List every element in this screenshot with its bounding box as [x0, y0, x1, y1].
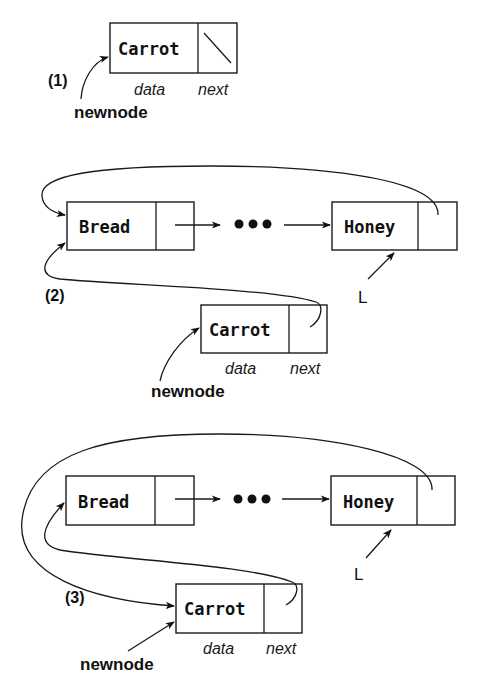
- newnode-pointer-label: newnode: [151, 382, 225, 401]
- newnode-arrow-icon: [128, 622, 174, 651]
- node-data-text: Carrot: [118, 39, 179, 59]
- node-bread: Bread: [66, 476, 194, 525]
- data-field-label: data: [134, 81, 165, 98]
- node-data-text: Carrot: [209, 320, 270, 340]
- node-honey: Honey: [331, 476, 455, 525]
- step-label: (2): [45, 287, 65, 304]
- node-data-text: Carrot: [184, 599, 245, 619]
- node-bread: Bread: [67, 202, 194, 250]
- newnode-arrow-icon: [160, 328, 199, 381]
- ellipsis: [234, 495, 271, 504]
- data-field-label: data: [225, 360, 256, 377]
- data-field-label: data: [203, 640, 234, 657]
- node-data-text: Honey: [343, 492, 394, 512]
- step-label: (3): [65, 589, 85, 606]
- step-label: (1): [48, 72, 68, 89]
- next-field-label: next: [266, 640, 297, 657]
- newnode-pointer-label: newnode: [74, 103, 148, 122]
- L-arrow-icon: [366, 530, 391, 558]
- ellipsis: [235, 220, 272, 229]
- L-arrow-icon: [368, 253, 394, 279]
- node-data-text: Bread: [79, 217, 130, 237]
- newnode-arrow-icon: [81, 57, 108, 99]
- L-pointer-label: L: [354, 565, 363, 584]
- linked-list-insertion-diagram: Carrot data next (1) newnode Bread Honey: [0, 0, 491, 697]
- node-carrot: Carrot: [110, 23, 237, 73]
- next-field-label: next: [290, 360, 321, 377]
- step-1: Carrot data next (1) newnode: [48, 23, 237, 122]
- L-pointer-label: L: [358, 288, 367, 307]
- node-honey: Honey: [332, 202, 457, 250]
- step-2: Bread Honey L (2) Carrot data nex: [42, 166, 457, 401]
- next-field-label: next: [198, 81, 229, 98]
- step-3: Bread Honey L (3) Carrot data nex: [22, 434, 455, 674]
- newnode-pointer-label: newnode: [80, 655, 154, 674]
- node-carrot: Carrot: [176, 584, 302, 633]
- node-carrot: Carrot: [201, 305, 327, 353]
- node-data-text: Honey: [344, 217, 395, 237]
- node-data-text: Bread: [78, 492, 129, 512]
